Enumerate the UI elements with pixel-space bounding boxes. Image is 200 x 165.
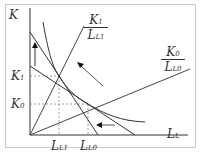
x-axis-label: LL — [167, 128, 180, 140]
diagonal-arrow — [77, 62, 103, 86]
ray-label-k1-ll1: K1 LL1 — [84, 14, 108, 41]
y-tick-k1: K1 — [11, 70, 24, 82]
y-tick-k0: K0 — [11, 98, 24, 110]
left-arrow — [96, 122, 115, 128]
x-tick-ll0: LL0 — [80, 140, 97, 152]
ray-k1-ll1 — [30, 26, 84, 135]
ray-label-k0-ll0: K0 LL0 — [161, 46, 185, 73]
up-arrow — [32, 42, 38, 66]
y-axis-label: K — [9, 9, 18, 21]
x-tick-ll1: LL1 — [51, 140, 68, 152]
figure-caption — [40, 152, 170, 162]
